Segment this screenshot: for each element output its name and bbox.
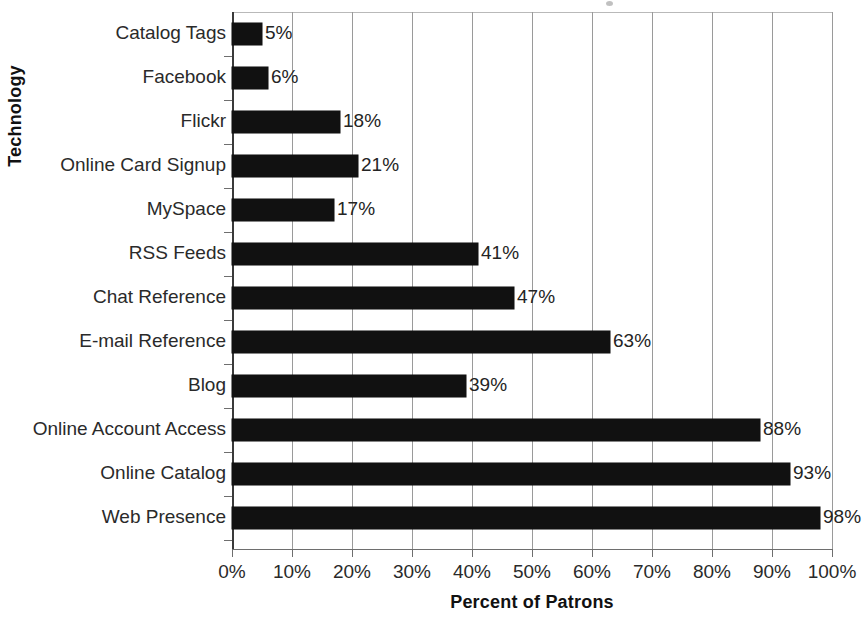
y-tick: [224, 100, 232, 101]
bar-value-label: 88%: [760, 416, 801, 442]
category-label: Online Card Signup: [30, 154, 226, 176]
category-label: Online Account Access: [30, 418, 226, 440]
bar-value-label: 93%: [790, 460, 831, 486]
y-axis-title: Technology: [2, 26, 28, 206]
x-tick-label-10: 10%: [273, 560, 311, 584]
category-label: MySpace: [30, 198, 226, 220]
bar-value-label: 21%: [358, 152, 399, 178]
bar: [232, 419, 760, 441]
x-tick-40: [472, 549, 473, 557]
bar: [232, 67, 268, 89]
x-tick-20: [352, 549, 353, 557]
x-tick-70: [652, 549, 653, 557]
x-tick-label-90: 90%: [753, 560, 791, 584]
x-tick-80: [712, 549, 713, 557]
bar-row: 98%: [232, 496, 832, 540]
bar-row: 47%: [232, 276, 832, 320]
bar-value-label: 41%: [478, 240, 519, 266]
x-tick-label-40: 40%: [453, 560, 491, 584]
x-tick-60: [592, 549, 593, 557]
y-tick: [224, 540, 232, 541]
bar-row: 21%: [232, 144, 832, 188]
x-tick-label-80: 80%: [693, 560, 731, 584]
gridline-100: [832, 12, 833, 549]
x-tick-label-20: 20%: [333, 560, 371, 584]
bar: [232, 463, 790, 485]
y-tick: [224, 364, 232, 365]
bar-value-label: 6%: [268, 64, 298, 90]
bar-value-label: 98%: [820, 504, 861, 530]
bar-value-label: 17%: [334, 196, 375, 222]
bar-row: 39%: [232, 364, 832, 408]
x-tick-0: [232, 549, 233, 557]
bar-value-label: 5%: [262, 20, 292, 46]
bar-row: 17%: [232, 188, 832, 232]
bar-row: 93%: [232, 452, 832, 496]
x-axis-title: Percent of Patrons: [232, 592, 832, 613]
plot-area: 5%6%18%21%17%41%47%63%39%88%93%98%: [232, 12, 832, 549]
y-tick: [224, 144, 232, 145]
y-tick: [224, 408, 232, 409]
x-tick-50: [532, 549, 533, 557]
x-tick-label-50: 50%: [513, 560, 551, 584]
bar: [232, 243, 478, 265]
category-label: Chat Reference: [30, 286, 226, 308]
category-label: RSS Feeds: [30, 242, 226, 264]
bar: [232, 331, 610, 353]
bar-value-label: 47%: [514, 284, 555, 310]
y-tick: [224, 56, 232, 57]
bar-value-label: 18%: [340, 108, 381, 134]
category-label: E-mail Reference: [30, 330, 226, 352]
y-tick: [224, 232, 232, 233]
y-tick: [224, 188, 232, 189]
category-label: Catalog Tags: [30, 22, 226, 44]
y-tick: [224, 276, 232, 277]
x-tick-90: [772, 549, 773, 557]
bar-value-label: 39%: [466, 372, 507, 398]
category-label: Web Presence: [30, 506, 226, 528]
x-tick-label-30: 30%: [393, 560, 431, 584]
y-tick: [224, 452, 232, 453]
bar-row: 5%: [232, 12, 832, 56]
bar: [232, 375, 466, 397]
bar-row: 41%: [232, 232, 832, 276]
scan-artifact: [606, 1, 613, 6]
bar-value-label: 63%: [610, 328, 651, 354]
x-tick-label-0: 0%: [218, 560, 245, 584]
x-tick-label-70: 70%: [633, 560, 671, 584]
category-label: Blog: [30, 374, 226, 396]
bar: [232, 111, 340, 133]
bar-chart: Technology Catalog TagsFacebookFlickrOnl…: [0, 0, 863, 633]
bar: [232, 155, 358, 177]
category-label: Flickr: [30, 110, 226, 132]
category-label: Online Catalog: [30, 462, 226, 484]
category-label: Facebook: [30, 66, 226, 88]
bar: [232, 23, 262, 45]
y-tick: [224, 496, 232, 497]
bar-row: 18%: [232, 100, 832, 144]
x-tick-label-100: 100%: [808, 560, 857, 584]
y-tick: [224, 320, 232, 321]
bar-row: 88%: [232, 408, 832, 452]
bar: [232, 287, 514, 309]
bar: [232, 199, 334, 221]
x-tick-30: [412, 549, 413, 557]
x-tick-100: [832, 549, 833, 557]
x-tick-label-60: 60%: [573, 560, 611, 584]
x-tick-10: [292, 549, 293, 557]
bar: [232, 507, 820, 529]
category-axis: Catalog TagsFacebookFlickrOnline Card Si…: [30, 12, 226, 549]
bar-row: 63%: [232, 320, 832, 364]
bar-row: 6%: [232, 56, 832, 100]
